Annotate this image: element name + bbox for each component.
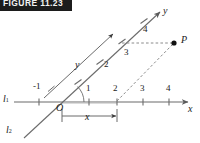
point-p-marker [171, 40, 176, 45]
y-tick-label-4: 4 [143, 25, 148, 34]
diagram-svg [0, 0, 200, 143]
angle-arc [78, 87, 85, 102]
x-measure-label: x [85, 112, 89, 122]
x-measure-bracket [62, 109, 117, 122]
x-tick-label-minus1: -1 [33, 82, 41, 91]
x-tick-label-2: 2 [113, 84, 118, 93]
x-tick-label-4: 4 [166, 84, 171, 93]
line-l1-label: l1 [3, 94, 9, 104]
figure-container: FIGURE 11.23 [0, 0, 200, 143]
y-tick-label-3: 3 [124, 48, 129, 57]
x-axis-label: x [188, 104, 192, 114]
x-tick-label-1: 1 [86, 84, 91, 93]
x-tick-label-3: 3 [140, 84, 145, 93]
y-axis-line [24, 12, 160, 138]
parallel-line-label: y [75, 60, 79, 70]
y-axis-label: y [163, 6, 167, 16]
point-p-label: P [181, 35, 187, 45]
line-l2-label: l2 [6, 125, 12, 135]
origin-label: O [56, 103, 63, 113]
y-axis-ticks [75, 19, 148, 85]
y-tick-label-2: 2 [104, 60, 109, 69]
